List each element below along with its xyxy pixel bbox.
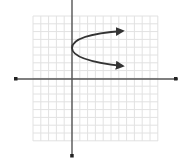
coordinate-plane xyxy=(0,0,186,165)
x-axis xyxy=(14,77,178,81)
x-axis-right-arrow-icon xyxy=(174,77,178,81)
y-axis-bottom-arrow-icon xyxy=(70,154,74,158)
x-axis-left-arrow-icon xyxy=(14,77,18,81)
